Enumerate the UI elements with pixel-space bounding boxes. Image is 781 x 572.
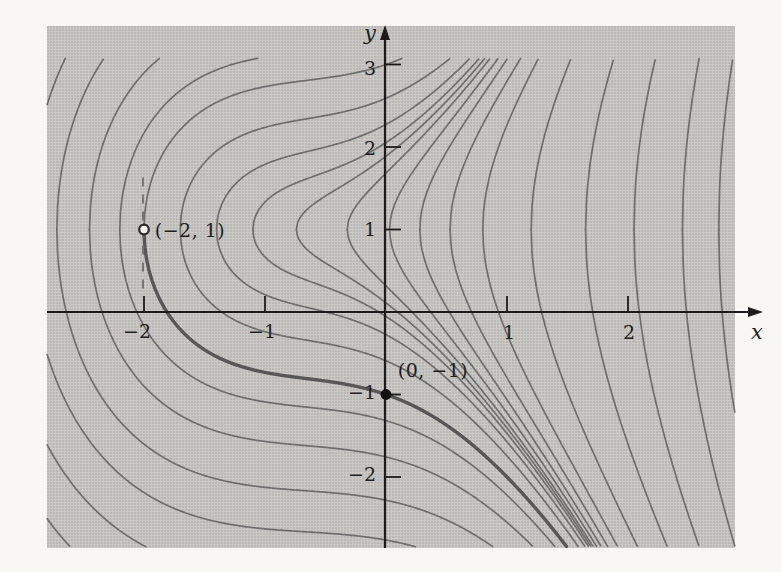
integral-curves-svg — [0, 0, 781, 572]
integral-curves-figure: y x 3 2 1 −1 −2 −2 −1 1 2 (−2, 1) (0, −1… — [0, 0, 781, 572]
x-axis-arrow — [748, 307, 763, 317]
y-tick-label-3: 3 — [364, 59, 376, 78]
integral-curve — [483, 59, 538, 229]
integral-curve — [47, 445, 146, 547]
integral-curve — [683, 230, 735, 546]
y-tick-label-1: 1 — [364, 220, 376, 239]
integral-curve — [217, 59, 470, 230]
integral-curve — [120, 58, 258, 229]
integral-curve — [217, 230, 585, 547]
y-tick-label-neg1: −1 — [348, 383, 376, 402]
integral-curve — [531, 230, 637, 546]
x-axis-label: x — [751, 322, 763, 343]
integral-curve — [586, 230, 667, 546]
integral-curve — [483, 230, 617, 546]
x-tick-label-1: 1 — [503, 323, 515, 342]
x-tick-label-neg1: −1 — [248, 322, 276, 341]
point-label-open-circle: (−2, 1) — [155, 221, 226, 240]
integral-curve — [57, 230, 493, 547]
integral-curve — [90, 230, 533, 547]
integral-curve — [683, 59, 700, 230]
integral-curve — [719, 230, 735, 413]
y-axis-arrow — [380, 25, 390, 40]
integral-curve — [297, 230, 591, 546]
x-tick-label-2: 2 — [623, 323, 635, 342]
integral-curve — [47, 519, 69, 547]
integral-curve — [450, 58, 520, 229]
integral-curve — [531, 60, 570, 230]
y-axis-label: y — [364, 23, 376, 44]
y-tick-label-2: 2 — [364, 139, 376, 158]
integral-curve — [634, 230, 699, 546]
integral-curve — [253, 230, 588, 547]
integral-curve — [90, 59, 160, 230]
x-tick-label-neg2: −2 — [123, 322, 151, 341]
integral-curve — [57, 59, 103, 229]
point-label-filled-dot: (0, −1) — [398, 361, 469, 380]
filled-dot-point — [381, 389, 392, 400]
open-circle-point — [139, 225, 149, 235]
integral-curve — [634, 60, 655, 230]
y-tick-label-neg2: −2 — [348, 465, 376, 484]
integral-curve — [47, 58, 65, 104]
integral-curve — [719, 60, 733, 229]
integral-curve — [586, 61, 614, 230]
